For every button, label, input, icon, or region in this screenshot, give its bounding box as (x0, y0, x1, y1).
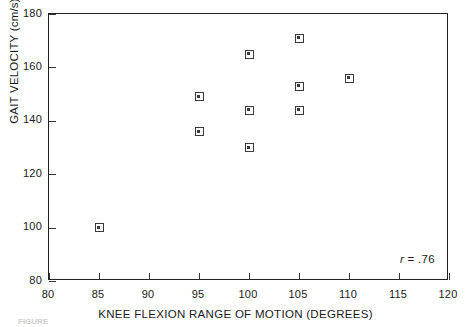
data-point (195, 92, 204, 101)
y-tick-label: 180 (14, 8, 42, 19)
x-tick (449, 273, 450, 280)
correlation-annotation: r = .76 (400, 253, 435, 265)
x-tick (199, 273, 200, 280)
figure-caption-label: FIGURE (18, 318, 48, 326)
y-axis-title: GAIT VELOCITY (cm/s) (8, 0, 20, 151)
y-tick-label: 140 (14, 114, 42, 125)
data-point (95, 223, 104, 232)
x-tick (399, 273, 400, 280)
x-tick (249, 273, 250, 280)
plot-area: r = .76 (48, 13, 448, 280)
y-tick (49, 67, 56, 68)
y-tick (49, 174, 56, 175)
data-point (245, 143, 254, 152)
data-point (195, 127, 204, 136)
x-tick-label: 90 (128, 289, 168, 300)
y-tick-label: 120 (14, 168, 42, 179)
y-tick (49, 14, 56, 15)
x-tick-label: 120 (428, 289, 468, 300)
correlation-symbol: r (400, 253, 404, 265)
y-tick-label: 80 (14, 275, 42, 286)
x-tick (299, 273, 300, 280)
data-point (245, 50, 254, 59)
data-point (295, 34, 304, 43)
y-tick (49, 281, 56, 282)
x-tick-label: 110 (328, 289, 368, 300)
scatter-plot-figure: GAIT VELOCITY (cm/s) r = .76 80100120140… (0, 0, 471, 327)
x-tick-label: 80 (28, 289, 68, 300)
data-point (245, 106, 254, 115)
x-tick-label: 100 (228, 289, 268, 300)
correlation-value: = .76 (408, 253, 435, 265)
y-tick (49, 228, 56, 229)
x-tick (99, 273, 100, 280)
data-point (295, 82, 304, 91)
y-tick (49, 121, 56, 122)
figure-caption: FIGURE (18, 318, 458, 326)
x-tick (349, 273, 350, 280)
x-tick (149, 273, 150, 280)
y-tick-label: 100 (14, 221, 42, 232)
x-tick (49, 273, 50, 280)
x-tick-label: 105 (278, 289, 318, 300)
data-point (295, 106, 304, 115)
x-tick-label: 85 (78, 289, 118, 300)
data-point (345, 74, 354, 83)
x-tick-label: 95 (178, 289, 218, 300)
y-tick-label: 160 (14, 61, 42, 72)
x-tick-label: 115 (378, 289, 418, 300)
